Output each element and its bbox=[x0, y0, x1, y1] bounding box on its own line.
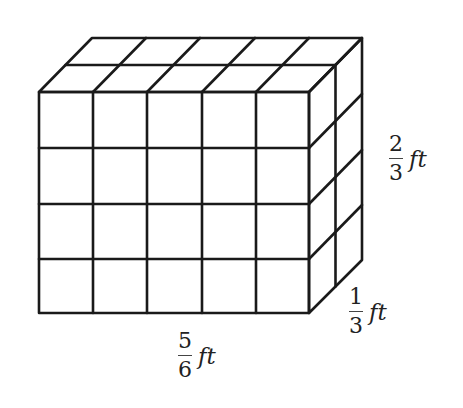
prism-drawing bbox=[0, 0, 463, 408]
depth-denominator: 3 bbox=[349, 312, 363, 337]
length-unit: ft bbox=[198, 343, 216, 369]
depth-fraction: 1 3 bbox=[349, 286, 363, 337]
length-label: 5 6 ft bbox=[178, 330, 216, 381]
depth-label: 1 3 ft bbox=[349, 286, 387, 337]
height-denominator: 3 bbox=[389, 159, 403, 184]
right-face bbox=[309, 38, 362, 313]
length-denominator: 6 bbox=[178, 356, 192, 381]
length-numerator: 5 bbox=[178, 330, 192, 355]
depth-unit: ft bbox=[369, 299, 387, 325]
height-label: 2 3 ft bbox=[389, 133, 427, 184]
depth-numerator: 1 bbox=[349, 286, 363, 311]
top-face bbox=[39, 38, 362, 92]
length-fraction: 5 6 bbox=[178, 330, 192, 381]
height-fraction: 2 3 bbox=[389, 133, 403, 184]
height-numerator: 2 bbox=[389, 133, 403, 158]
height-unit: ft bbox=[409, 146, 427, 172]
front-face bbox=[39, 92, 309, 313]
